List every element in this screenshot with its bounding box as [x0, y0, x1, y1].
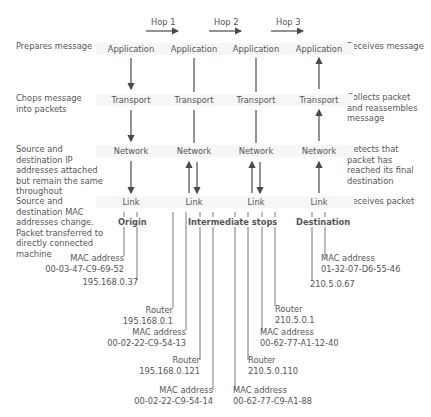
router2-ip: 195.168.0.121	[120, 366, 200, 377]
router1-mac-address: MAC address 00-02-22-C9-54-13	[100, 327, 186, 349]
router2-mac-label: MAC address	[120, 385, 213, 396]
origin-mac-value: 00-03-47-C9-69-52	[40, 264, 124, 275]
router1-address: Router 195.168.0.1	[100, 305, 173, 327]
router4-mac-value: 00-62-77-C9-A1-88	[233, 396, 312, 407]
hop1-transport-layer: Transport	[159, 94, 229, 106]
destination-transport-layer: Transport	[284, 94, 354, 106]
desc-prepares-message: Prepares message	[16, 41, 96, 52]
router3-address: Router 210.5.0.1	[275, 304, 315, 326]
router4-mac-address: MAC address 00-62-77-C9-A1-88	[233, 385, 312, 407]
hop1-link-layer: Link	[159, 196, 229, 208]
router4-label: Router	[248, 355, 298, 366]
destination-ip-address: 210.5.0.67	[310, 279, 355, 290]
router3-label: Router	[275, 304, 315, 315]
router1-label: Router	[100, 305, 173, 316]
origin-network-layer: Network	[96, 145, 166, 157]
hop-2-label: Hop 2	[214, 17, 239, 27]
router2-address: Router 195.168.0.121	[120, 355, 200, 377]
destination-link-layer: Link	[284, 196, 354, 208]
hop2-network-layer: Network	[221, 145, 291, 157]
destination-mac-label: MAC address	[321, 253, 400, 264]
router3-mac-value: 00-62-77-A1-12-40	[260, 338, 339, 349]
router2-mac-value: 00-02-22-C9-54-14	[120, 396, 213, 407]
destination-mac-value: 01-32-07-D6-55-46	[321, 264, 400, 275]
hop2-application-layer: Application	[221, 43, 291, 55]
desc-mac-addresses: Source and destination MAC addresses cha…	[16, 196, 106, 259]
origin-mac-address: MAC address 00-03-47-C9-69-52	[40, 253, 124, 275]
hop2-link-layer: Link	[221, 196, 291, 208]
destination-network-layer: Network	[284, 145, 354, 157]
origin-link-layer: Link	[96, 196, 166, 208]
intermediate-stops-label: Intermediate stops	[187, 217, 278, 227]
destination-mac-address: MAC address 01-32-07-D6-55-46	[321, 253, 400, 275]
desc-receives-packet: Receives packet	[347, 196, 427, 207]
router2-label: Router	[120, 355, 200, 366]
desc-collects-packet: Collects packet and reassembles message	[347, 92, 419, 124]
desc-chops-message: Chops message into packets	[16, 93, 96, 114]
hop-1-label: Hop 1	[151, 17, 176, 27]
router1-mac-label: MAC address	[100, 327, 186, 338]
hop2-transport-layer: Transport	[221, 94, 291, 106]
router4-ip: 210.5.0.110	[248, 366, 298, 377]
hop1-application-layer: Application	[159, 43, 229, 55]
desc-detects-destination: Detects that packet has reached its fina…	[347, 144, 427, 186]
destination-application-layer: Application	[284, 43, 354, 55]
origin-transport-layer: Transport	[96, 94, 166, 106]
router1-ip: 195.168.0.1	[100, 316, 173, 327]
origin-label: Origin	[117, 217, 148, 227]
router4-mac-label: MAC address	[233, 385, 312, 396]
hop-3-label: Hop 3	[276, 17, 301, 27]
destination-label: Destination	[295, 217, 351, 227]
desc-ip-addresses: Source and destination IP addresses atta…	[16, 144, 106, 197]
origin-application-layer: Application	[96, 43, 166, 55]
hop1-network-layer: Network	[159, 145, 229, 157]
origin-mac-label: MAC address	[40, 253, 124, 264]
router3-ip: 210.5.0.1	[275, 315, 315, 326]
router1-mac-value: 00-02-22-C9-54-13	[100, 338, 186, 349]
desc-receives-message: Receives message	[347, 41, 431, 52]
router4-address: Router 210.5.0.110	[248, 355, 298, 377]
router2-mac-address: MAC address 00-02-22-C9-54-14	[120, 385, 213, 407]
router3-mac-address: MAC address 00-62-77-A1-12-40	[260, 327, 339, 349]
origin-ip-address: 195.168.0.37	[60, 277, 138, 288]
router3-mac-label: MAC address	[260, 327, 339, 338]
